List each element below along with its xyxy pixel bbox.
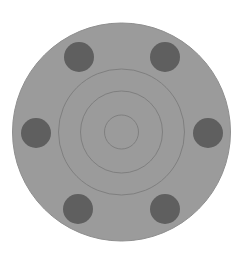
- hole-bottom-right: [150, 194, 180, 224]
- hole-top-right: [150, 42, 180, 72]
- hole-right: [193, 118, 223, 148]
- hole-bottom-left: [63, 194, 93, 224]
- hole-top-left: [64, 42, 94, 72]
- hole-left: [21, 118, 51, 148]
- diagram-canvas: [0, 0, 243, 258]
- flange-disc-diagram: [0, 0, 243, 258]
